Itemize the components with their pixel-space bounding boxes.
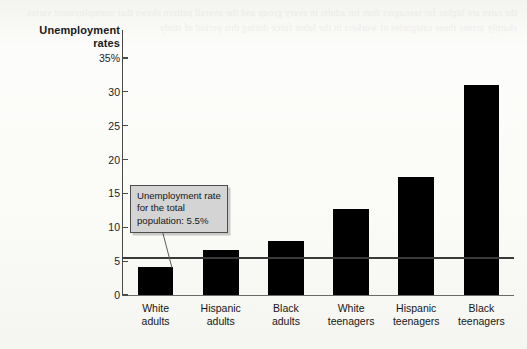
y-tick-label: 30 [90,86,120,98]
chart-title-line-1: Unemployment [39,24,120,36]
x-label-line-2: adults [253,315,318,328]
x-label-line-1: Black [449,302,514,315]
x-axis-line [122,295,514,296]
x-label-line-2: teenagers [384,315,449,328]
x-label-line-2: adults [123,315,188,328]
x-label-line-1: White [319,302,384,315]
x-axis-label-white-adults: Whiteadults [123,302,188,328]
bar-white-adults [138,267,174,295]
chart-title-line-2: rates [93,37,120,49]
x-axis-label-hispanic-teenagers: Hispanicteenagers [384,302,449,328]
x-label-line-2: teenagers [319,315,384,328]
bar-hispanic-teenagers [398,177,434,296]
y-tick-label: 10 [90,221,120,233]
x-label-line-1: Hispanic [188,302,253,315]
y-tick-label: 0 [90,289,120,301]
x-axis-labels: WhiteadultsHispanicadultsBlackadultsWhit… [123,302,515,342]
x-label-line-2: teenagers [449,315,514,328]
unemployment-rates-bar-chart: Unemployment rates 35%302520151050 Unemp… [0,0,527,349]
x-label-line-2: adults [188,315,253,328]
plot-area [123,58,514,295]
chart-page: the rates are higher for teenagers than … [0,0,527,349]
x-axis-label-black-teenagers: Blackteenagers [449,302,514,328]
x-label-line-1: Hispanic [384,302,449,315]
y-tick-label: 25 [90,120,120,132]
x-axis-label-black-adults: Blackadults [253,302,318,328]
bar-white-teenagers [333,209,369,295]
bar-black-adults [268,241,304,295]
callout-line-1: Unemployment [137,190,202,201]
x-axis-label-white-teenagers: Whiteteenagers [319,302,384,328]
y-tick-label: 35% [90,52,120,64]
x-axis-label-hispanic-adults: Hispanicadults [188,302,253,328]
y-tick-label: 5 [90,255,120,267]
y-tick-label: 15 [90,187,120,199]
callout-line-3: population: 5.5% [137,215,208,226]
bar-black-teenagers [464,85,500,295]
chart-title: Unemployment rates [14,24,120,50]
x-label-line-1: Black [253,302,318,315]
total-population-reference-line [122,257,514,259]
y-tick-label: 20 [90,154,120,166]
x-label-line-1: White [123,302,188,315]
total-population-callout: Unemployment rate for the total populati… [130,185,228,233]
